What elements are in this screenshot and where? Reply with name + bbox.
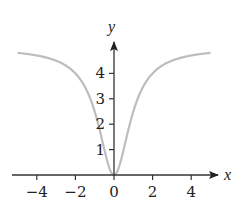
- x-tick-label: 2: [148, 183, 158, 201]
- y-tick-label: 3: [95, 90, 105, 108]
- x-tick-label: 4: [186, 183, 196, 201]
- y-ticks: 1234: [95, 64, 114, 158]
- y-axis-label: y: [106, 18, 116, 36]
- x-tick-label: −2: [64, 183, 86, 201]
- y-tick-label: 1: [95, 141, 105, 159]
- y-tick-label: 2: [95, 115, 105, 133]
- x-ticks: −4−2024: [26, 175, 196, 201]
- x-tick-label: −4: [26, 183, 48, 201]
- x-axis-label: x: [223, 166, 231, 183]
- x-tick-label: 0: [109, 183, 119, 201]
- chart: −4−2024 1234 x y: [0, 0, 245, 216]
- y-tick-label: 4: [95, 64, 105, 82]
